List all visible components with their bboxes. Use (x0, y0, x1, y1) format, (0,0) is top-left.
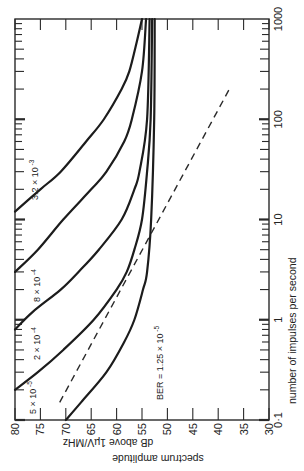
chart: 0·11101001000 8075706560555045403530 BER… (0, 0, 304, 471)
curve-label: 8 × 10 -4 (30, 269, 42, 302)
curve-label: 5 × 10 -5 (26, 381, 38, 414)
db-tick-label: 30 (263, 423, 275, 435)
db-tick-label: 50 (161, 423, 173, 435)
db-tick-label: 70 (60, 423, 72, 435)
db-tick-label: 35 (238, 423, 250, 435)
x-axis-label: number of impulses per second (286, 257, 298, 404)
db-tick-label: 80 (9, 423, 21, 435)
curve-label: BER = 1.25 × 10 -5 (153, 325, 165, 400)
impulse-rate-tick-labels: 0·11101001000 (272, 7, 284, 428)
rate-tick-label: 100 (272, 110, 284, 128)
curve-label: 3.2 × 10 -3 (28, 159, 40, 200)
rate-tick-label: 10 (272, 213, 284, 225)
ber-curve-3 (15, 19, 146, 272)
db-tick-label: 65 (85, 423, 97, 435)
ber-curves (15, 19, 229, 420)
rate-tick-label: 1000 (272, 7, 284, 31)
db-tick-label: 75 (34, 423, 46, 435)
y-axis-label-line2: dB above 1µV/MHz (63, 437, 154, 449)
db-tick-label: 45 (187, 423, 199, 435)
rate-tick-label: 1 (272, 317, 284, 323)
y-axis-label-line1: spectrum amplitude (112, 453, 204, 465)
db-tick-label: 60 (111, 423, 123, 435)
db-tick-label: 55 (136, 423, 148, 435)
db-tick-label: 40 (212, 423, 224, 435)
amplitude-tick-labels: 8075706560555045403530 (9, 423, 275, 435)
curve-label: 2 × 10 -4 (30, 327, 42, 360)
